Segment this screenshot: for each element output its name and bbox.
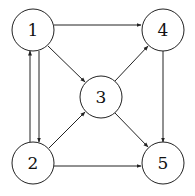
node-4: 4: [142, 9, 184, 51]
node-5: 5: [142, 142, 184, 184]
node-2: 2: [12, 142, 54, 184]
node-label: 5: [158, 153, 169, 173]
node-label: 1: [28, 20, 39, 40]
node-1: 1: [12, 9, 54, 51]
edge-3-5: [115, 113, 148, 147]
node-label: 2: [28, 153, 39, 173]
edge-3-4: [115, 46, 148, 81]
node-3: 3: [80, 76, 122, 118]
edge-1-3: [48, 46, 85, 82]
node-label: 3: [96, 87, 107, 107]
edge-2-3: [49, 112, 85, 148]
node-label: 4: [158, 20, 169, 40]
directed-graph: 1 2 3 4 5: [0, 0, 195, 196]
